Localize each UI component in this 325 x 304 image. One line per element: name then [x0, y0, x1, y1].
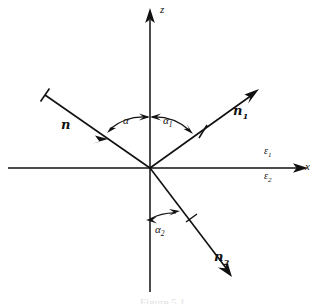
angle-alpha2-label: α2: [155, 224, 165, 238]
angle-alpha1-subscript: 1: [169, 120, 173, 129]
figure-caption: Figure 5.1: [0, 296, 325, 304]
angle-alpha1-arrowhead-end-icon: [184, 124, 194, 135]
vector-n-label: n: [61, 118, 71, 134]
reflected-ray-arrowhead-icon: [245, 89, 260, 104]
axis-group: [8, 8, 308, 292]
x-axis-label: x: [305, 161, 310, 172]
z-axis-label: z: [160, 4, 164, 15]
vector-n2-subscript: 2: [224, 257, 230, 267]
angle-alpha-label: α: [123, 115, 129, 129]
vector-diagram: [0, 0, 325, 304]
vector-n1-subscript: 1: [243, 111, 249, 121]
permittivity-lower-label: ε2: [264, 171, 271, 184]
vector-n1-label: n1: [233, 104, 248, 120]
angle-alpha2-arrowhead-end-icon: [169, 209, 180, 216]
vector-n1-symbol: n: [233, 103, 243, 118]
vector-n2-label: n2: [214, 250, 229, 266]
vector-n2-symbol: n: [214, 249, 224, 264]
vector-n-symbol: n: [61, 117, 71, 132]
permittivity-upper-subscript: 1: [268, 151, 272, 159]
incident-ray-n: [41, 89, 151, 169]
incident-ray-end-tick-icon: [41, 89, 50, 102]
angle-alpha-symbol: α: [123, 114, 129, 126]
angle-alpha1-label: α1: [163, 115, 173, 129]
angle-alpha2-arc: [146, 209, 180, 224]
angle-alpha2-subscript: 2: [161, 229, 165, 238]
permittivity-upper-label: ε1: [264, 146, 271, 159]
figure-canvas: z x ε1 ε2 n n1 n2 α α1 α2 Figure 5.1: [0, 0, 325, 304]
permittivity-lower-subscript: 2: [268, 176, 272, 184]
angle-alpha-arrowhead-start-icon: [107, 123, 116, 134]
